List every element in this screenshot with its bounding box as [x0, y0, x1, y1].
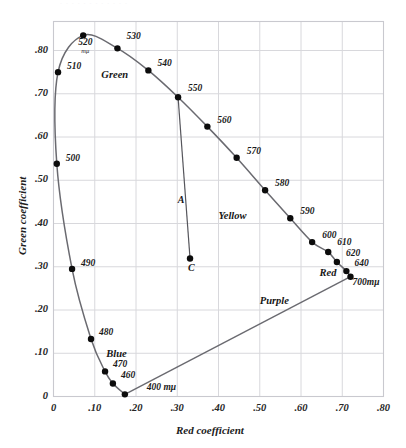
- y-axis-title: Green coefficient: [16, 177, 28, 255]
- wavelength-label-460: 460: [121, 370, 135, 380]
- wavelength-label-580: 580: [275, 178, 289, 188]
- wavelength-label-500: 500: [66, 153, 80, 163]
- wavelength-label-470: 470: [113, 359, 127, 369]
- wavelength-label-590: 590: [300, 206, 314, 216]
- wavelength-label-540: 540: [157, 58, 171, 68]
- y-tick-label: .10: [18, 346, 48, 357]
- y-tick-label: .80: [18, 44, 48, 55]
- wavelength-label-610: 610: [337, 237, 351, 247]
- region-label-yellow: Yellow: [219, 210, 247, 221]
- x-tick-label: .80: [369, 402, 399, 413]
- y-tick-label: 0: [18, 390, 48, 401]
- wavelength-label-550: 550: [188, 83, 202, 93]
- point-label-line-a-label: A: [178, 194, 185, 205]
- wavelength-label-480: 480: [99, 327, 113, 337]
- y-tick-label: .20: [18, 303, 48, 314]
- x-tick-label: .60: [286, 402, 316, 413]
- wavelength-label-700: 700mμ: [353, 277, 380, 287]
- wavelength-label-490: 490: [81, 258, 95, 268]
- y-tick-label: .70: [18, 87, 48, 98]
- wavelength-label-570: 570: [247, 146, 261, 156]
- figure-page: · · · · · · · · · · · · 0.10.20.30.40.50…: [0, 0, 406, 448]
- x-tick-label: .70: [327, 402, 357, 413]
- x-tick-label: .40: [204, 402, 234, 413]
- purple-line: [125, 277, 351, 395]
- y-tick-label: .60: [18, 130, 48, 141]
- wavelength-unit-mu: mμ: [81, 47, 89, 54]
- wavelength-label-560: 560: [217, 115, 231, 125]
- x-tick-label: 0: [39, 402, 69, 413]
- x-tick-label: .20: [121, 402, 151, 413]
- x-tick-label: .30: [162, 402, 192, 413]
- chromaticity-diagram-plot: [0, 0, 406, 448]
- point-label-illuminant-c: C: [188, 262, 195, 273]
- region-label-green: Green: [101, 69, 128, 80]
- x-tick-label: .10: [80, 402, 110, 413]
- wavelength-label-600: 600: [322, 230, 336, 240]
- wavelength-label-530: 530: [126, 31, 140, 41]
- wavelength-label-400: 400 mμ: [147, 382, 176, 392]
- region-label-purple: Purple: [260, 295, 289, 306]
- x-axis-title: Red coefficient: [176, 424, 244, 436]
- wavelength-label-520: 520: [78, 37, 92, 47]
- dominant-wavelength-line: [178, 97, 190, 258]
- y-tick-label: .30: [18, 260, 48, 271]
- region-label-blue: Blue: [106, 348, 126, 359]
- region-label-red: Red: [320, 267, 337, 278]
- x-tick-label: .50: [245, 402, 275, 413]
- wavelength-label-640: 640: [354, 258, 368, 268]
- wavelength-label-510: 510: [67, 61, 81, 71]
- wavelength-label-620: 620: [346, 248, 360, 258]
